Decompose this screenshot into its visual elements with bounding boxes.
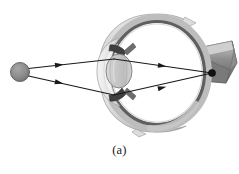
figure-caption: (a) (0, 143, 239, 158)
image-point (208, 69, 215, 76)
figure-container: (a) (0, 0, 239, 174)
arrowhead-lower-incident (54, 79, 63, 86)
object-point (11, 63, 30, 82)
